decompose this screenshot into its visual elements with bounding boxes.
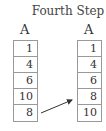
move-arrow-icon	[0, 0, 106, 131]
